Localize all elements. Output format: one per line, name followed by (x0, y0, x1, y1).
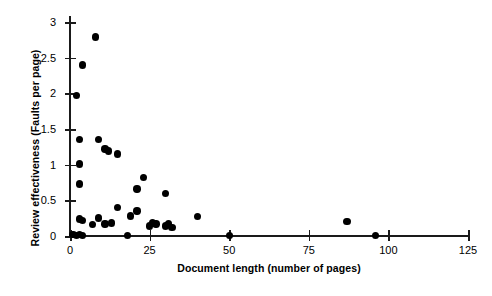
x-tick-label: 125 (459, 244, 477, 256)
x-tick (468, 230, 470, 241)
data-point (105, 147, 112, 154)
data-point (168, 224, 175, 231)
y-tick: 3 (65, 22, 76, 24)
data-point (76, 160, 83, 167)
data-point (162, 190, 169, 197)
y-tick-label: 0.5 (41, 194, 56, 206)
x-tick (309, 230, 311, 241)
data-point (108, 219, 115, 226)
y-tick-label: 1 (50, 159, 56, 171)
x-tick (388, 230, 390, 241)
y-tick-label: 2 (50, 87, 56, 99)
y-tick: 2.5 (65, 58, 76, 60)
data-point (133, 207, 140, 214)
plot-area: 00.511.522.53 0255075100125 (70, 22, 468, 236)
y-tick-label: 2.5 (41, 52, 56, 64)
scatter-plot-figure: Review effectiveness (Faults per page) D… (0, 0, 492, 296)
x-tick-label: 25 (143, 244, 155, 256)
data-point (101, 220, 108, 227)
data-point (73, 92, 80, 99)
data-point (114, 204, 121, 211)
data-point (133, 185, 140, 192)
x-tick (150, 230, 152, 241)
data-point (79, 232, 86, 239)
x-tick-label: 75 (303, 244, 315, 256)
data-point (372, 232, 379, 239)
x-axis-label: Document length (number of pages) (70, 262, 468, 274)
data-point (79, 61, 86, 68)
data-point (140, 174, 147, 181)
data-point (89, 221, 96, 228)
x-tick-label: 50 (223, 244, 235, 256)
y-tick-label: 3 (50, 16, 56, 28)
data-point (95, 136, 102, 143)
data-point (152, 220, 159, 227)
data-point (114, 150, 121, 157)
y-axis-label: Review effectiveness (Faults per page) (22, 0, 48, 296)
data-point (343, 218, 350, 225)
data-point (76, 180, 83, 187)
y-tick-label: 1.5 (41, 123, 56, 135)
y-tick: 0.5 (65, 200, 76, 202)
data-point (76, 136, 83, 143)
y-tick-label: 0 (50, 230, 56, 242)
data-point (226, 232, 233, 239)
data-point (127, 212, 134, 219)
y-tick: 1 (65, 165, 76, 167)
data-point (79, 217, 86, 224)
x-tick-label: 0 (67, 244, 73, 256)
y-tick: 1.5 (65, 129, 76, 131)
y-axis-line (69, 16, 71, 237)
data-point (194, 213, 201, 220)
x-tick-label: 100 (379, 244, 397, 256)
data-point (92, 33, 99, 40)
data-point (124, 232, 131, 239)
